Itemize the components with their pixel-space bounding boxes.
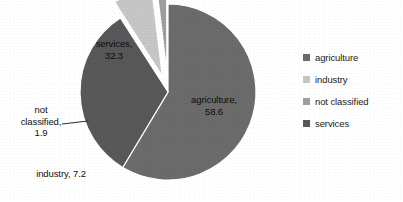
legend-swatch-icon	[303, 98, 310, 105]
legend-label: services	[315, 118, 349, 129]
pie-plot-area: services, 32.3 agriculture, 58.6 not cla…	[0, 0, 290, 202]
legend-item-industry[interactable]: industry	[303, 68, 403, 90]
legend-item-agriculture[interactable]: agriculture	[303, 46, 403, 68]
legend-item-not-classified[interactable]: not classified	[303, 90, 403, 112]
cut-off-footnote	[14, 193, 254, 202]
slice-label-agriculture: agriculture, 58.6	[168, 94, 260, 117]
slice-label-industry: industry, 7.2	[18, 168, 104, 180]
pie-chart-figure: services, 32.3 agriculture, 58.6 not cla…	[0, 0, 403, 202]
legend-swatch-icon	[303, 120, 310, 127]
pie-slices-group	[80, 0, 256, 180]
legend-swatch-icon	[303, 76, 310, 83]
legend-item-services[interactable]: services	[303, 112, 403, 134]
legend-swatch-icon	[303, 54, 310, 61]
legend-label: not classified	[315, 96, 369, 107]
chart-legend: agricultureindustrynot classifiedservice…	[303, 46, 403, 134]
slice-label-not-classified: not classified, 1.9	[2, 104, 80, 139]
legend-label: agriculture	[315, 52, 358, 63]
legend-label: industry	[315, 74, 347, 85]
slice-label-services: services, 32.3	[72, 38, 156, 61]
